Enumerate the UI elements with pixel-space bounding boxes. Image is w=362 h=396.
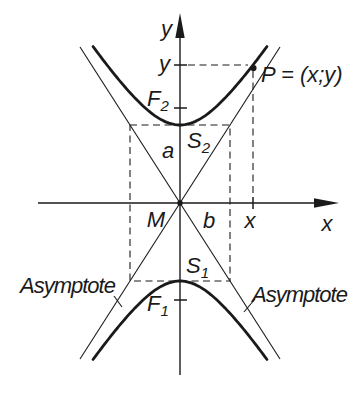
focus-f2-label: F2 [147,86,169,114]
asymptote-left-leader-line [114,296,122,307]
semi-axis-b-label: b [203,208,215,233]
x-axis-arrowhead-icon [314,198,339,207]
vertex-s2-subscript: 2 [201,139,211,156]
center-m-dot [177,200,182,205]
hyperbola-diagram: y x y x P = (x;y) F2 S2 S1 F1 a b M Asym… [0,0,362,396]
asymptote-left-label: Asymptote [18,273,116,298]
diagram-canvas: y x y x P = (x;y) F2 S2 S1 F1 a b M Asym… [0,0,362,396]
focus-f1-subscript: 1 [160,302,168,319]
y-coordinate-label: y [157,51,172,76]
point-p-dot [250,65,256,71]
point-p-label: P = (x;y) [261,62,343,87]
semi-axis-a-label: a [162,138,174,163]
x-axis-label: x [321,211,334,236]
x-coordinate-label: x [244,208,257,233]
y-axis-arrowhead-icon [175,13,184,38]
vertex-s2-label: S2 [187,128,211,156]
focus-f2-subscript: 2 [159,97,169,114]
y-axis-label: y [159,16,174,41]
vertex-s1-subscript: 1 [201,264,209,281]
asymptote-right-label: Asymptote [250,282,348,307]
center-m-label: M [147,207,166,232]
vertex-s1-label: S1 [186,253,209,281]
vertex-s2-base: S [187,128,202,153]
focus-f1-label: F1 [147,291,169,319]
vertex-s1-base: S [186,253,201,278]
